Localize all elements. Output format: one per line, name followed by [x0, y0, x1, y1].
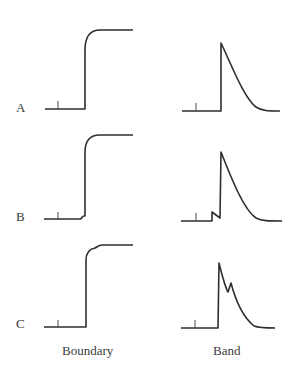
trace-a-boundary: [45, 30, 133, 109]
trace-a-band: [182, 43, 280, 111]
diagram-canvas: [0, 0, 296, 385]
column-label-boundary: Boundary: [62, 343, 113, 359]
trace-c-boundary: [44, 245, 133, 327]
row-label-b: B: [16, 209, 25, 225]
trace-b-boundary: [44, 135, 133, 219]
trace-b-band: [181, 152, 282, 221]
row-label-a: A: [16, 100, 25, 116]
column-label-band: Band: [213, 343, 240, 359]
row-label-c: C: [16, 316, 25, 332]
trace-c-band: [181, 263, 275, 328]
